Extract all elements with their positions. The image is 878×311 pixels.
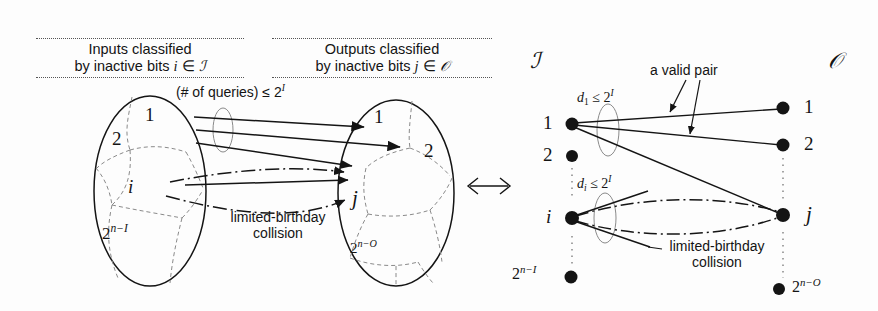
output-cell-label-2nO: 2n−O — [350, 238, 377, 257]
graph-label-left-2nI: 2n−I — [512, 263, 536, 284]
output-cell-label-j: j — [352, 186, 358, 210]
limited-birthday-links-left — [166, 169, 345, 213]
input-cell-label-i: i — [128, 176, 133, 198]
collision-label-left-line2: collision — [253, 225, 303, 241]
output-caption-set: 𝒪 — [440, 58, 449, 74]
degree-ellipse-top — [597, 104, 619, 156]
node-right-1 — [777, 102, 790, 115]
queries-bound-exponent: I — [282, 83, 285, 93]
node-right-2nO — [773, 283, 785, 295]
input-caption-set: ℐ — [199, 58, 206, 74]
valid-pair-pointers — [670, 80, 700, 134]
output-caption-line1: Outputs classified — [325, 41, 439, 57]
input-caption-line2: by inactive bits i ∈ ℐ — [42, 58, 238, 75]
node-left-2nI — [565, 271, 578, 284]
output-cell-label-1: 1 — [374, 106, 384, 128]
valid-pair-label: a valid pair — [650, 62, 718, 78]
output-caption-line2: by inactive bits j ∈ 𝒪 — [278, 58, 486, 75]
graph-label-right-2: 2 — [804, 133, 814, 155]
node-right-j — [776, 208, 790, 222]
queries-bound-label: (# of queries) ≤ 2I — [176, 83, 285, 100]
output-cell-label-2: 2 — [424, 140, 434, 162]
output-caption: Outputs classified by inactive bits j ∈ … — [272, 38, 492, 78]
graph-label-left-i: i — [546, 206, 551, 228]
degree-label-top: d1 ≤ 2I — [577, 88, 614, 108]
query-arrows — [185, 117, 400, 185]
set-symbol-I: ℐ — [530, 48, 540, 73]
input-cell-label-2nI: 2n−I — [102, 222, 128, 243]
collision-label-right-line1: limited-birthday — [670, 238, 765, 254]
collision-label-right: limited-birthday collision — [642, 238, 792, 270]
input-cell-label-1: 1 — [145, 104, 155, 126]
graph-label-right-j: j — [806, 202, 812, 226]
set-symbol-O: 𝒪 — [828, 48, 842, 73]
degree-ellipse-bottom — [594, 193, 616, 243]
graph-label-left-1: 1 — [543, 112, 553, 134]
collision-label-right-line2: collision — [692, 254, 742, 270]
input-caption-line1: Inputs classified — [88, 41, 191, 57]
node-left-2 — [566, 150, 578, 162]
collision-label-left-line1: limited-birthday — [231, 209, 326, 225]
figure-root: Inputs classified by inactive bits i ∈ ℐ… — [0, 0, 878, 311]
collision-label-left: limited-birthday collision — [208, 209, 348, 241]
equivalence-arrow — [468, 178, 510, 194]
graph-label-left-2: 2 — [543, 144, 553, 166]
node-right-2 — [777, 139, 790, 152]
degree-label-bottom: di ≤ 2I — [577, 174, 612, 194]
input-caption: Inputs classified by inactive bits i ∈ ℐ — [36, 38, 244, 78]
edges-from-node-1 — [574, 109, 781, 214]
node-left-i — [565, 211, 579, 225]
graph-label-right-1: 1 — [804, 96, 814, 118]
input-cell-label-2: 2 — [112, 128, 122, 150]
node-left-1 — [566, 118, 579, 131]
graph-label-right-2nO: 2n−O — [792, 276, 821, 297]
